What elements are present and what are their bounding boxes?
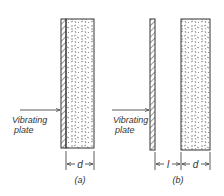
plate-label-a-line2: plate [13, 125, 34, 135]
plate-label-a-line1: Vibrating [12, 115, 47, 125]
caption-b: (b) [173, 175, 184, 185]
dimension-d-label-a: d [77, 159, 83, 170]
plate-label-b-line1: Vibrating [113, 115, 148, 125]
vibrating-plate-a [61, 19, 66, 148]
plate-label-b-line2: plate [114, 125, 135, 135]
caption-a: (a) [75, 175, 86, 185]
vibrating-plate-b [150, 19, 155, 150]
diagram-canvas: Vibrating plate d (a) Vibrating plate l … [0, 0, 224, 196]
dimension-d-label-b: d [193, 159, 199, 170]
dimension-l-label-b: l [167, 159, 170, 170]
porous-material-b [181, 19, 210, 150]
porous-material-a [66, 19, 94, 148]
panel-b: Vibrating plate l d (b) [112, 19, 210, 185]
panel-a: Vibrating plate d (a) [12, 19, 94, 185]
